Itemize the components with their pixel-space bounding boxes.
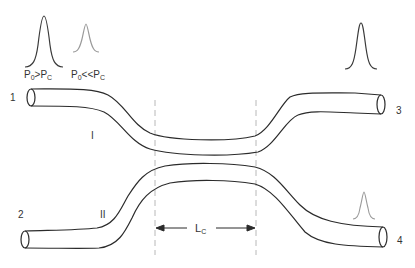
arm-lower-label: II — [100, 210, 106, 220]
pulse-input-low-icon — [73, 24, 99, 52]
port-4-label: 4 — [397, 236, 403, 246]
waveguide-upper — [27, 89, 385, 155]
coupling-length-label: LC — [195, 223, 206, 234]
label-input-high: P0>PC — [24, 70, 52, 80]
port-3-label: 3 — [396, 106, 402, 116]
pulse-output-port4-icon — [353, 192, 375, 219]
pulse-input-high-icon — [25, 16, 63, 67]
arm-upper-label: I — [91, 131, 94, 141]
port-1-label: 1 — [10, 93, 16, 103]
label-input-low: P0<<PC — [71, 70, 105, 80]
pulse-output-port3-icon — [345, 23, 377, 69]
waveguide-lower — [21, 163, 387, 248]
diagram-canvas — [0, 0, 415, 268]
port-2-label: 2 — [18, 210, 24, 220]
coupler-diagram: P0>PC P0<<PC 1 2 3 4 I II LC — [0, 0, 415, 268]
